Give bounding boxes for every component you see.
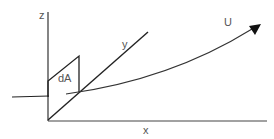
z-axis-label: z [39,10,45,21]
x-axis-label: x [143,125,149,136]
incoming-line [12,96,49,97]
y-axis-label: y [122,39,128,50]
flow-label-U: U [224,17,232,28]
area-label-dA: dA [58,73,71,84]
flow-vector-curve [66,29,252,94]
